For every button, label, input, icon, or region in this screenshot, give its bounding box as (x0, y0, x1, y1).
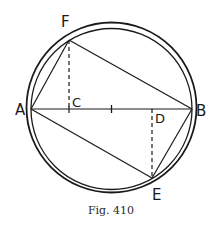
label-a: A (15, 101, 26, 119)
label-f: F (61, 13, 70, 31)
segment-ae (31, 109, 152, 178)
segment-af (31, 40, 69, 109)
label-d: D (155, 111, 165, 126)
geometry-figure: A B C D E F (0, 0, 222, 225)
label-b: B (196, 102, 206, 120)
label-e: E (152, 186, 161, 204)
label-c: C (72, 95, 81, 110)
figure-caption: Fig. 410 (0, 204, 222, 217)
